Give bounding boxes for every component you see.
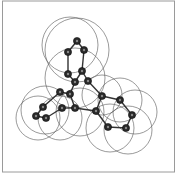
atom-highlight <box>42 106 44 108</box>
atom-sphere <box>45 48 105 108</box>
atom-highlight <box>59 91 61 93</box>
atom-highlight <box>35 115 37 117</box>
atom-highlight <box>95 110 97 112</box>
atom-highlight <box>67 73 69 75</box>
atom-highlight <box>83 49 85 51</box>
atom-highlight <box>87 80 89 82</box>
atom-highlight <box>45 117 47 119</box>
atom-highlight <box>81 70 83 72</box>
atom-highlight <box>74 107 76 109</box>
atom-highlight <box>74 81 76 83</box>
atom-highlight <box>67 51 69 53</box>
van-der-waals-spheres <box>16 17 157 154</box>
atom-highlight <box>131 114 133 116</box>
atom-highlight <box>76 40 78 42</box>
atom-highlight <box>101 95 103 97</box>
atom-highlight <box>125 127 127 129</box>
figure-frame <box>3 1 175 172</box>
atom-sphere <box>42 17 98 73</box>
atom-highlight <box>61 107 63 109</box>
atom-balls <box>32 37 135 131</box>
bond-lines <box>36 41 132 128</box>
molecular-model-figure <box>0 0 178 176</box>
atom-highlight <box>107 126 109 128</box>
atom-highlight <box>119 99 121 101</box>
atom-highlight <box>69 93 71 95</box>
